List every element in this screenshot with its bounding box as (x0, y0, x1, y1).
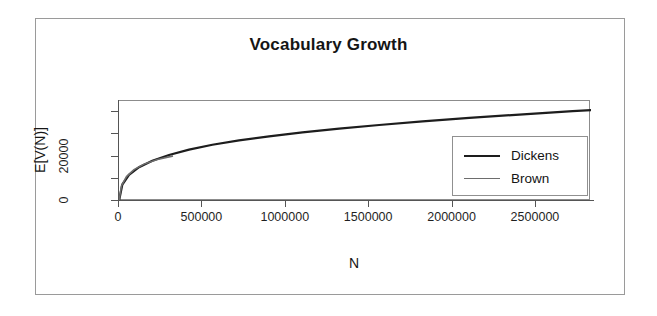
x-tick-mark (201, 200, 202, 207)
chart-legend: Dickens Brown (452, 136, 588, 196)
y-tick-label: 20000 (57, 138, 71, 173)
y-axis-title: E[V(N)] (32, 127, 48, 173)
legend-label-brown: Brown (511, 172, 549, 186)
y-axis-line (118, 100, 119, 200)
x-tick-mark (368, 200, 369, 207)
x-tick-mark (285, 200, 286, 207)
y-tick-mark (111, 111, 118, 112)
y-tick-mark (111, 156, 118, 157)
x-axis-title: N (118, 255, 590, 271)
x-tick-label: 0 (115, 210, 122, 224)
x-tick-label: 500000 (181, 210, 223, 224)
x-tick-mark (535, 200, 536, 207)
y-tick-label: 0 (57, 197, 71, 204)
legend-item-dickens: Dickens (453, 144, 587, 167)
legend-label-dickens: Dickens (511, 149, 559, 163)
x-axis-line (114, 200, 594, 201)
y-axis-tick-labels: 020000 (0, 0, 108, 316)
x-tick-mark (452, 200, 453, 207)
legend-swatch-dickens (464, 155, 500, 157)
y-tick-mark (111, 133, 118, 134)
x-tick-label: 1500000 (344, 210, 393, 224)
x-tick-label: 1000000 (260, 210, 309, 224)
x-tick-mark (118, 200, 119, 207)
y-tick-mark (111, 200, 118, 201)
x-tick-label: 2500000 (511, 210, 560, 224)
x-tick-label: 2000000 (427, 210, 476, 224)
y-tick-mark (111, 178, 118, 179)
legend-swatch-brown (464, 178, 500, 179)
legend-item-brown: Brown (453, 167, 587, 190)
